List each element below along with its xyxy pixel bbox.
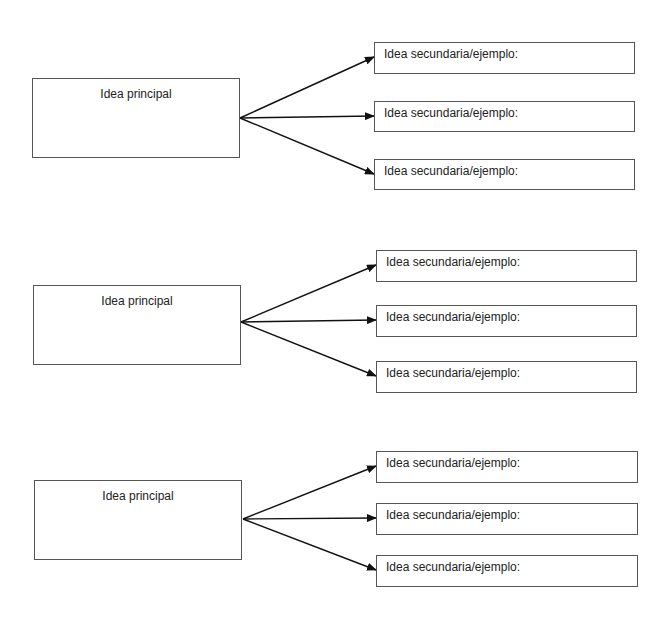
arrow-icon: [241, 320, 376, 322]
arrow-icon: [240, 116, 374, 118]
secondary-idea-box[interactable]: Idea secundaria/ejemplo:: [376, 305, 637, 337]
arrow-icon: [241, 265, 376, 322]
arrow-icon: [243, 466, 376, 519]
main-idea-label: Idea principal: [35, 489, 241, 503]
secondary-idea-box[interactable]: Idea secundaria/ejemplo:: [374, 42, 635, 74]
secondary-idea-label: Idea secundaria/ejemplo:: [386, 255, 636, 269]
secondary-idea-label: Idea secundaria/ejemplo:: [384, 164, 634, 178]
secondary-idea-label: Idea secundaria/ejemplo:: [386, 310, 636, 324]
secondary-idea-box[interactable]: Idea secundaria/ejemplo:: [376, 503, 638, 535]
secondary-idea-box[interactable]: Idea secundaria/ejemplo:: [374, 101, 635, 132]
main-idea-box[interactable]: Idea principal: [33, 285, 241, 365]
main-idea-label: Idea principal: [34, 294, 240, 308]
main-idea-box[interactable]: Idea principal: [32, 78, 240, 158]
main-idea-box[interactable]: Idea principal: [34, 480, 242, 560]
secondary-idea-label: Idea secundaria/ejemplo:: [386, 560, 637, 574]
secondary-idea-label: Idea secundaria/ejemplo:: [384, 47, 634, 61]
arrow-icon: [243, 519, 376, 570]
secondary-idea-label: Idea secundaria/ejemplo:: [386, 508, 637, 522]
secondary-idea-label: Idea secundaria/ejemplo:: [384, 106, 634, 120]
arrow-icon: [241, 322, 376, 376]
secondary-idea-label: Idea secundaria/ejemplo:: [386, 456, 637, 470]
secondary-idea-label: Idea secundaria/ejemplo:: [386, 366, 636, 380]
secondary-idea-box[interactable]: Idea secundaria/ejemplo:: [374, 159, 635, 190]
secondary-idea-box[interactable]: Idea secundaria/ejemplo:: [376, 451, 638, 483]
arrow-icon: [240, 57, 374, 118]
arrow-icon: [240, 118, 374, 174]
arrow-icon: [243, 518, 376, 519]
secondary-idea-box[interactable]: Idea secundaria/ejemplo:: [376, 250, 637, 282]
secondary-idea-box[interactable]: Idea secundaria/ejemplo:: [376, 361, 637, 393]
main-idea-label: Idea principal: [33, 87, 239, 101]
secondary-idea-box[interactable]: Idea secundaria/ejemplo:: [376, 555, 638, 587]
